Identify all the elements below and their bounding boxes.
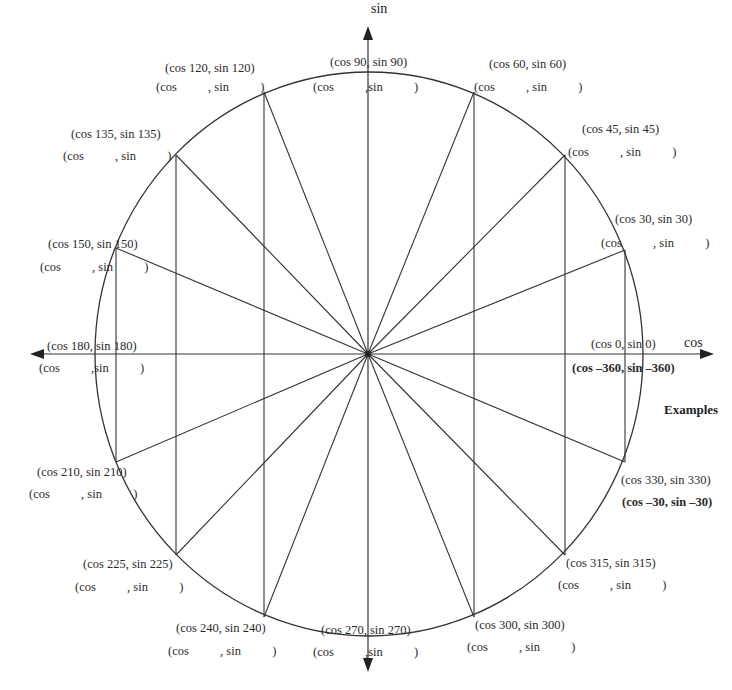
point-label-30: (cos 30, sin 30) (615, 213, 692, 226)
point-label-120: (cos 120, sin 120) (165, 62, 255, 75)
point-label-300: (cos 300, sin 300) (475, 619, 565, 632)
point-label-90: (cos 90, sin 90) (330, 56, 407, 69)
x-axis-label: cos (684, 336, 703, 350)
point-label-225: (cos 225, sin 225) (83, 558, 173, 571)
radius-line-225 (176, 354, 368, 555)
point-blank-225: (cos , sin ) (75, 581, 183, 594)
radius-line-210 (116, 354, 368, 462)
point-label-150: (cos 150, sin 150) (48, 238, 138, 251)
examples-heading: Examples (664, 403, 718, 416)
point-blank-210: (cos , sin ) (29, 488, 137, 501)
point-blank-30: (cos , sin ) (601, 237, 709, 250)
radius-line-60 (368, 92, 474, 354)
point-blank-180: (cos ,sin ) (39, 362, 144, 375)
radius-line-30 (368, 250, 625, 354)
point-blank-300: (cos , sin ) (467, 641, 575, 654)
radius-line-45 (368, 155, 565, 354)
point-label-0: (cos 0, sin 0) (591, 338, 656, 351)
y-axis-up-arrow-icon (363, 26, 373, 40)
point-label-315: (cos 315, sin 315) (566, 557, 656, 570)
radius-line-240 (264, 354, 368, 617)
point-blank-240: (cos , sin ) (168, 645, 276, 658)
point-blank-135: (cos , sin ) (63, 150, 171, 163)
y-axis-down-arrow-icon (363, 658, 373, 672)
x-axis-left-arrow-icon (30, 349, 44, 359)
point-label-240: (cos 240, sin 240) (176, 622, 266, 635)
radius-line-300 (368, 354, 474, 617)
point-blank-315: (cos , sin ) (558, 579, 666, 592)
point-blank-150: (cos , sin ) (40, 261, 148, 274)
point-blank-90: (cos ,sin ) (313, 81, 418, 94)
point-label-60: (cos 60, sin 60) (489, 58, 566, 71)
radius-line-315 (368, 354, 565, 555)
point-label-330: (cos 330, sin 330) (621, 474, 711, 487)
point-label-135: (cos 135, sin 135) (71, 128, 161, 141)
point-label-45: (cos 45, sin 45) (582, 123, 659, 136)
example-neg360-label: (cos –360, sin –360) (572, 362, 675, 375)
radius-line-135 (176, 155, 368, 354)
point-blank-60: (cos , sin ) (474, 81, 582, 94)
point-label-270: (cos 270, sin 270) (321, 624, 411, 637)
radius-line-120 (264, 92, 368, 354)
radius-line-150 (116, 248, 368, 354)
example-neg30-label: (cos –30, sin –30) (622, 496, 712, 509)
point-blank-120: (cos , sin ) (156, 81, 264, 94)
x-axis-right-arrow-icon (700, 349, 714, 359)
point-label-210: (cos 210, sin 210) (37, 466, 127, 479)
point-blank-270: (cos ,sin ) (313, 646, 418, 659)
y-axis-label: sin (371, 2, 387, 16)
point-blank-45: (cos , sin ) (568, 146, 676, 159)
point-label-180: (cos 180, sin 180) (47, 340, 137, 353)
origin-point (365, 351, 371, 357)
